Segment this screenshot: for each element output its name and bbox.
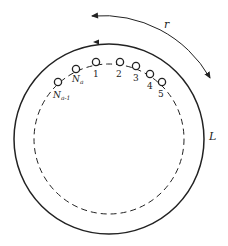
- svg-text:2: 2: [116, 69, 122, 79]
- diagram-canvas: r Na-1 Na 1 2 3 4 5 L: [0, 0, 228, 246]
- outer-ring-direction-arrow-icon: [93, 40, 99, 45]
- node-4: 4: [146, 70, 153, 91]
- node-n: Na: [71, 65, 84, 85]
- svg-text:Na-1: Na-1: [52, 90, 70, 101]
- outer-ring-label: L: [208, 130, 216, 143]
- node-2: 2: [116, 58, 124, 79]
- inner-dashed-ring: [34, 64, 184, 214]
- node-n-minus-1: Na-1: [52, 78, 70, 101]
- svg-text:5: 5: [158, 89, 164, 99]
- svg-text:3: 3: [133, 73, 139, 83]
- svg-text:Na: Na: [71, 74, 84, 85]
- rotation-arc-r: [92, 16, 210, 78]
- ring-diagram: r Na-1 Na 1 2 3 4 5 L: [0, 0, 228, 246]
- node-1: 1: [92, 58, 99, 79]
- svg-text:4: 4: [147, 81, 153, 91]
- svg-text:1: 1: [93, 69, 99, 79]
- rotation-label: r: [164, 18, 170, 31]
- node-3: 3: [132, 62, 139, 83]
- outer-ring: [14, 44, 204, 234]
